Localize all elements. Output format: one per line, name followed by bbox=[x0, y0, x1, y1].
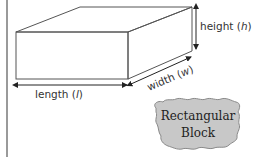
height-label: height (h) bbox=[200, 20, 252, 32]
width-label: width (w) bbox=[145, 63, 195, 93]
rectangular-block-diagram: height (h) length (l) width (w) Rectangu… bbox=[0, 0, 268, 157]
cloud-shape bbox=[155, 98, 240, 149]
callout-line-1: Rectangular bbox=[161, 109, 236, 123]
length-label: length (l) bbox=[35, 88, 83, 100]
callout-line-2: Block bbox=[181, 126, 216, 140]
callout-cloud: Rectangular Block bbox=[155, 98, 240, 149]
block-top-face bbox=[16, 7, 192, 32]
block-front-face bbox=[16, 32, 128, 79]
